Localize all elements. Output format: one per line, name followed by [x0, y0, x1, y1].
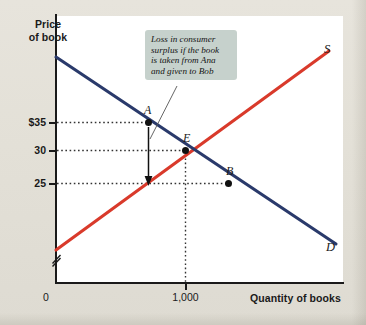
y-tick-25	[49, 183, 57, 185]
y-tick-label-35: $35	[14, 116, 46, 128]
data-point-a	[145, 119, 152, 126]
callout-box: Loss in consumer surplus if the book is …	[145, 30, 237, 80]
demand-curve-label: D	[326, 240, 335, 255]
data-point-e	[182, 147, 189, 154]
callout-line-2: surplus if the book	[151, 45, 232, 56]
y-axis-title-line1: Price	[35, 18, 61, 30]
data-point-e-label: E	[183, 131, 190, 146]
data-point-b-label: B	[226, 164, 233, 179]
callout-line-1: Loss in consumer	[151, 34, 232, 45]
y-axis-title-line2: of book	[29, 31, 68, 43]
demand-curve	[56, 57, 336, 244]
y-tick-label-30: 30	[14, 144, 46, 156]
x-tick-label-1000: 1,000	[163, 291, 208, 303]
y-axis-title: Price of book	[24, 18, 72, 43]
x-tick-label-0: 0	[36, 291, 56, 303]
x-tick-1000	[185, 283, 187, 290]
callout-leader-line	[150, 86, 177, 139]
data-point-b	[225, 180, 232, 187]
callout-line-4: and given to Bob	[151, 66, 232, 77]
y-tick-30	[49, 150, 57, 152]
y-tick-label-25: 25	[14, 177, 46, 189]
x-axis-title: Quantity of books	[250, 292, 341, 305]
data-point-a-label: A	[144, 103, 151, 118]
callout-line-3: is taken from Ana	[151, 55, 232, 66]
y-tick-35	[49, 122, 57, 124]
supply-curve	[56, 51, 329, 250]
supply-demand-figure: $35 30 25 0 1,000 Price of book Quantity…	[0, 0, 366, 325]
supply-curve-label: S	[324, 42, 330, 57]
